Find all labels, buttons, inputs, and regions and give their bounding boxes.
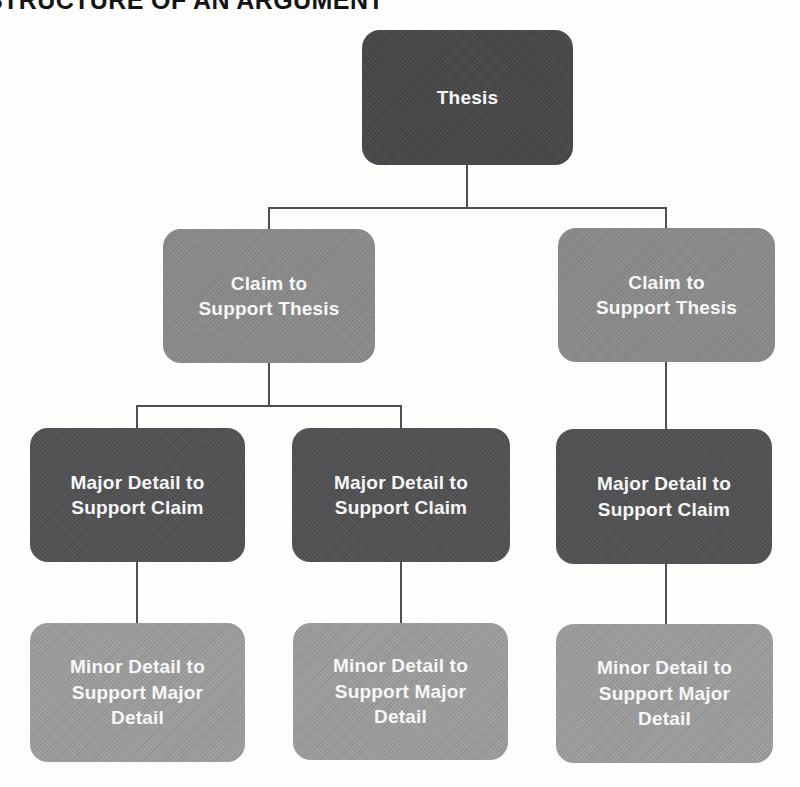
- node-label: Major Detail to: [334, 470, 468, 495]
- connector-minor-right-stem: [665, 564, 667, 625]
- connector-claim-right-drop: [665, 207, 667, 229]
- connector-minor-middle-stem: [400, 562, 402, 624]
- connector-major-middle-drop: [400, 405, 402, 429]
- node-major-middle: Major Detail to Support Claim: [292, 428, 510, 562]
- node-label: Minor Detail to: [597, 655, 732, 680]
- node-claim-right: Claim to Support Thesis: [558, 228, 775, 362]
- node-claim-left: Claim to Support Thesis: [163, 229, 375, 363]
- node-label: Support Thesis: [596, 295, 737, 320]
- connector-claim-left-stem: [268, 363, 270, 406]
- connector-major-left-drop: [136, 405, 138, 429]
- connector-claim-right-stem: [665, 362, 667, 430]
- node-label: Detail: [638, 706, 691, 731]
- node-label: Support Thesis: [198, 296, 339, 321]
- node-minor-left: Minor Detail to Support Major Detail: [30, 623, 245, 762]
- node-label: Support Claim: [71, 495, 203, 520]
- node-label: Claim to: [628, 270, 705, 295]
- connector-claim-left-drop: [268, 207, 270, 230]
- node-label: Claim to: [231, 271, 308, 296]
- node-label: Minor Detail to: [333, 653, 468, 678]
- connector-minor-left-stem: [136, 562, 138, 624]
- node-label: Support Major: [335, 679, 466, 704]
- argument-structure-diagram: STRUCTURE OF AN ARGUMENT Thesis Claim to…: [0, 0, 800, 787]
- connector-thesis-branch: [268, 207, 667, 209]
- node-major-left: Major Detail to Support Claim: [30, 428, 245, 562]
- node-major-right: Major Detail to Support Claim: [556, 429, 772, 564]
- connector-claim-left-branch: [136, 405, 402, 407]
- node-label: Major Detail to: [597, 471, 731, 496]
- node-label: Support Claim: [335, 495, 467, 520]
- node-label: Thesis: [437, 85, 498, 110]
- node-minor-middle: Minor Detail to Support Major Detail: [293, 623, 508, 760]
- node-minor-right: Minor Detail to Support Major Detail: [556, 624, 773, 763]
- node-label: Detail: [374, 704, 427, 729]
- node-label: Support Claim: [598, 497, 730, 522]
- node-label: Detail: [111, 705, 164, 730]
- connector-thesis-stem: [466, 165, 468, 208]
- node-thesis: Thesis: [362, 30, 573, 165]
- node-label: Minor Detail to: [70, 654, 205, 679]
- node-label: Support Major: [72, 680, 203, 705]
- page-title: STRUCTURE OF AN ARGUMENT: [0, 0, 384, 15]
- node-label: Major Detail to: [71, 470, 205, 495]
- node-label: Support Major: [599, 681, 730, 706]
